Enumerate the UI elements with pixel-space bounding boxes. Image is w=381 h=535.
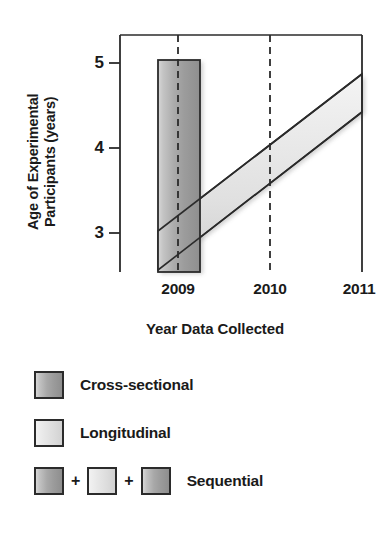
- x-tick-label-2010: 2010: [235, 281, 305, 297]
- x-axis-title: Year Data Collected: [90, 320, 340, 337]
- y-tick-label-3: 3: [78, 224, 104, 241]
- chart-legend: Cross-sectional Longitudinal + + Sequent…: [0, 368, 381, 528]
- legend-label-sequential: Sequential: [187, 472, 263, 490]
- legend-plus-icon-2: +: [124, 473, 133, 489]
- legend-swatch-sequential-longitudinal: [87, 467, 117, 495]
- legend-item-longitudinal: Longitudinal: [34, 416, 171, 450]
- series-band-cross-sectional: [158, 60, 200, 272]
- legend-label-longitudinal: Longitudinal: [80, 424, 171, 442]
- legend-label-cross-sectional: Cross-sectional: [80, 376, 193, 394]
- y-axis-ticks: [109, 63, 120, 233]
- y-tick-label-4: 4: [78, 139, 104, 156]
- legend-swatch-cross-sectional: [34, 371, 64, 399]
- chart-svg: [0, 0, 381, 310]
- legend-swatch-sequential-cross-2: [141, 467, 171, 495]
- legend-swatch-sequential-cross-1: [34, 467, 64, 495]
- figure-age-by-year-research-designs: Age of Experimental Participants (years)…: [0, 0, 381, 535]
- x-tick-label-2009: 2009: [143, 281, 213, 297]
- legend-plus-icon-1: +: [71, 473, 80, 489]
- legend-item-sequential: + + Sequential: [34, 464, 263, 498]
- chart-plot-region: Age of Experimental Participants (years)…: [0, 0, 381, 310]
- x-tick-label-2011: 2011: [324, 281, 381, 297]
- legend-item-cross-sectional: Cross-sectional: [34, 368, 193, 402]
- legend-swatch-longitudinal: [34, 419, 64, 447]
- y-tick-label-5: 5: [78, 54, 104, 71]
